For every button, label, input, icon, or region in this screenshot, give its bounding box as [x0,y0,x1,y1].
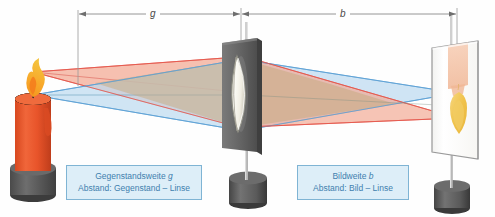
dimension-label-g: g [146,8,160,19]
optics-diagram: g b Gegenstandsweite g Abstand: Gegensta… [0,0,495,217]
image-distance-callout: Bildweite b Abstand: Bild – Linse [297,165,409,200]
symbol-b: b [369,171,374,181]
image-distance-callout-line2: Abstand: Bild – Linse [304,182,402,194]
object-distance-callout: Gegenstandsweite g Abstand: Gegenstand –… [66,165,202,200]
projection-screen [432,16,478,214]
object-distance-callout-line1: Gegenstandsweite g [73,170,195,182]
object-distance-callout-line2: Abstand: Gegenstand – Linse [73,182,195,194]
image-distance-callout-line1: Bildweite b [304,170,402,182]
candle-object [10,58,56,202]
dimension-label-b: b [336,8,350,19]
converging-lens [222,22,267,209]
symbol-g: g [168,171,173,181]
